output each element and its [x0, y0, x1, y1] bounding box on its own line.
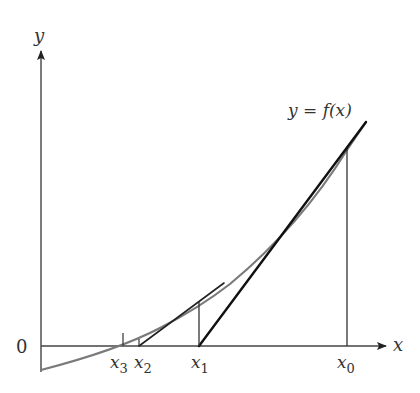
x3-label: x3 — [110, 352, 128, 376]
origin-label: 0 — [16, 336, 27, 357]
y-axis-label: y — [33, 25, 45, 46]
x-axis-label: x — [393, 334, 403, 355]
x0-label: x0 — [337, 352, 355, 376]
x2-label: x2 — [134, 352, 152, 376]
function-curve — [41, 122, 366, 370]
tangent-line-x0 — [199, 122, 366, 346]
x1-label: x1 — [191, 352, 209, 376]
tangent-line-x1 — [139, 283, 224, 346]
newton-method-diagram: y x 0 y = f(x) x0 x1 x2 x3 — [0, 0, 420, 393]
curve-label: y = f(x) — [287, 100, 352, 120]
